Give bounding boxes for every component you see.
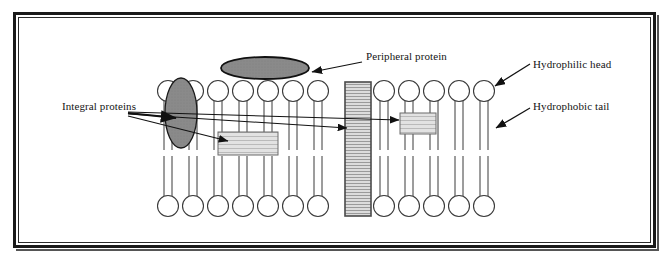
hydrophilic-head: [283, 196, 304, 217]
hydrophilic-head: [283, 81, 304, 102]
hydrophilic-head: [258, 196, 279, 217]
hydrophilic-head: [233, 81, 254, 102]
hydrophilic-head: [208, 196, 229, 217]
hydrophilic-head: [233, 196, 254, 217]
hydrophilic-head: [158, 196, 179, 217]
label-hydrophilic-head: Hydrophilic head: [533, 58, 611, 70]
hydrophilic-heads-lower-leaflet: [158, 196, 495, 217]
membrane-illustration: [0, 0, 672, 276]
peripheral-protein-ellipse: [221, 57, 309, 79]
label-integral-proteins: Integral proteins: [62, 100, 136, 112]
hydrophilic-head: [308, 196, 329, 217]
label-peripheral-protein: Peripheral protein: [366, 50, 447, 62]
integral-protein-channel: [345, 82, 371, 216]
hydrophilic-head: [308, 81, 329, 102]
hydrophilic-heads-upper-leaflet: [158, 81, 495, 102]
hydrophilic-head: [449, 196, 470, 217]
hydrophilic-head: [474, 81, 495, 102]
hydrophilic-head: [399, 196, 420, 217]
leader-hydrophilic-head: [495, 64, 530, 86]
hydrophilic-head: [474, 196, 495, 217]
hydrophilic-head: [258, 81, 279, 102]
leader-peripheral-protein: [312, 62, 362, 72]
label-hydrophobic-tail: Hydrophobic tail: [533, 100, 609, 112]
hydrophilic-head: [374, 81, 395, 102]
integral-protein-wide-rect: [218, 132, 278, 155]
phospholipid-bilayer: [158, 81, 495, 217]
hydrophobic-tails-upper-leaflet: [164, 100, 488, 150]
hydrophilic-head: [424, 81, 445, 102]
diagram-canvas: Peripheral protein Hydrophilic head Hydr…: [0, 0, 672, 276]
hydrophilic-head: [183, 196, 204, 217]
hydrophilic-head: [374, 196, 395, 217]
hydrophilic-head: [208, 81, 229, 102]
hydrophilic-head: [399, 81, 420, 102]
hydrophilic-head: [424, 196, 445, 217]
integral-protein-small-rect: [400, 113, 436, 134]
hydrophobic-tails-lower-leaflet: [164, 156, 488, 196]
hydrophilic-head: [449, 81, 470, 102]
leader-hydrophobic-tail: [496, 108, 530, 128]
